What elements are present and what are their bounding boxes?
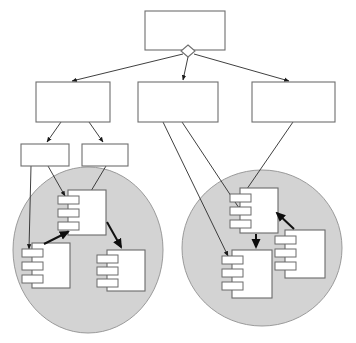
tier2-nodes (36, 82, 335, 122)
uml-diagram-canvas (0, 0, 356, 343)
tier2-right-box[interactable] (252, 82, 335, 122)
comp-left-right-tab-1 (97, 255, 118, 263)
edge-root-to-tier2-right[interactable] (194, 54, 289, 81)
tier2-left-box[interactable] (36, 82, 110, 122)
root-node[interactable] (145, 11, 225, 57)
comp-right-side-tab-3 (275, 262, 296, 270)
tier2-middle-box[interactable] (138, 82, 218, 122)
comp-right-bottom-tab-3 (222, 282, 243, 290)
comp-right-top-tab-1 (230, 194, 251, 202)
comp-right-top-tab-3 (230, 220, 251, 228)
comp-right-bottom-tab-2 (222, 269, 243, 277)
root-box[interactable] (145, 11, 225, 50)
edge-root-to-tier2-middle[interactable] (183, 57, 188, 80)
comp-left-right-tab-3 (97, 279, 118, 287)
edge-tier2left-to-tier3left[interactable] (47, 122, 61, 142)
comp-left-top-tab-2 (58, 209, 79, 217)
comp-left-bottom-tab-2 (22, 262, 43, 270)
component-comp-left-top[interactable] (58, 190, 106, 235)
comp-right-side-tab-2 (275, 249, 296, 257)
comp-right-bottom-tab-1 (222, 256, 243, 264)
comp-right-side-tab-1 (275, 236, 296, 244)
component-comp-left-right[interactable] (97, 250, 145, 291)
comp-left-bottom-tab-1 (22, 249, 43, 257)
figure-caption (0, 335, 356, 343)
comp-left-top-tab-3 (58, 222, 79, 230)
tier3-left-box[interactable] (21, 144, 69, 166)
comp-left-right-tab-2 (97, 267, 118, 275)
diagram-svg (0, 0, 356, 343)
component-comp-right-top[interactable] (230, 188, 278, 233)
component-comp-left-bottom[interactable] (22, 243, 70, 288)
edge-tier2left-to-tier3right[interactable] (89, 122, 103, 142)
comp-right-top-tab-2 (230, 207, 251, 215)
comp-left-top-tab-1 (58, 196, 79, 204)
tier3-right-box[interactable] (82, 144, 128, 166)
edge-root-to-tier2-left[interactable] (72, 54, 183, 81)
comp-left-bottom-tab-3 (22, 275, 43, 283)
tier3-nodes (21, 144, 128, 166)
